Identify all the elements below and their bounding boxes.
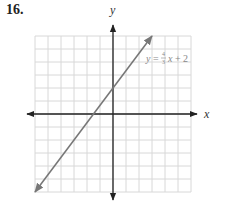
fraction-numerator: 4 [162, 51, 165, 57]
equation-label: y = 4 3 x + 2 [145, 51, 188, 65]
svg-text:y =: y = [145, 53, 159, 64]
x-axis-label: x [203, 107, 210, 121]
coordinate-plane: x y y = 4 3 x + 2 [0, 0, 227, 203]
y-axis-label: y [109, 3, 116, 17]
fraction-denominator: 3 [162, 59, 165, 65]
svg-text:x + 2: x + 2 [167, 53, 188, 64]
